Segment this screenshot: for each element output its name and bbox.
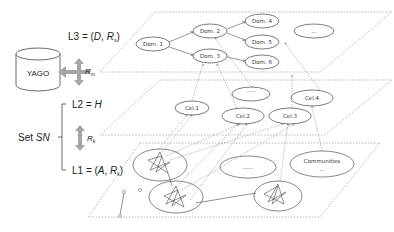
svg-text:Dom. 6: Dom. 6 [252,59,272,65]
celebrity-node-2: Cel.2 [222,108,264,124]
domain-node-2: Dom. 2 [193,24,227,38]
domain-node-more: ... [294,24,334,38]
svg-text:Cel.3: Cel.3 [283,113,298,119]
domain-node-3: Dom. 3 [193,49,227,63]
svg-text:Communities: Communities [304,158,340,164]
isolated-node [139,189,142,192]
celebrity-node-1: Cel.1 [175,101,209,115]
domain-nodes: Dom. 1 Dom. 2 Dom. 3 Dom. 4 Dom. 5 Dom. … [136,14,334,69]
celebrity-node-3: Cel.3 [269,108,311,124]
community-cluster-1 [133,149,187,181]
rm-label: Rm [85,67,95,77]
community-graph-edges [120,152,286,215]
svg-text:Cel.2: Cel.2 [236,113,250,119]
community-cluster-3 [254,181,302,211]
celebrity-node-more: ..... [232,87,270,101]
l1-label: L1 = (A, Rk) [72,165,123,177]
l3-label: L3 = (D, Rs) [68,31,120,43]
svg-text:Dom. 2: Dom. 2 [200,28,220,34]
svg-text:Dom. 1: Dom. 1 [143,41,163,47]
diagram-canvas: YAGO Rm L3 = (D, Rs) L2 = H L1 = (A, Rk)… [0,0,394,232]
svg-text:Cel.4: Cel.4 [305,95,320,101]
domain-node-1: Dom. 1 [136,37,170,51]
celebrity-node-4: Cel.4 [291,90,333,106]
domain-node-5: Dom. 5 [245,35,279,49]
isolated-node [119,215,122,218]
svg-text:...: ... [311,28,316,34]
yago-database-icon: YAGO [16,48,60,91]
domain-node-4: Dom. 4 [245,14,279,28]
set-sn-bracket [58,104,66,170]
isolated-node [123,191,126,194]
l2-label: L2 = H [72,99,103,110]
svg-text:Cel.1: Cel.1 [185,105,199,111]
celebrity-nodes: Cel.1 Cel.2 Cel.3 Cel.4 ..... [175,87,333,124]
yago-label: YAGO [27,69,50,78]
rk-arrow-icon [75,125,85,151]
svg-text:Dom. 4: Dom. 4 [252,18,272,24]
svg-text:Dom. 5: Dom. 5 [252,39,272,45]
svg-text:......: ...... [243,164,254,170]
svg-text:.....: ..... [247,87,256,93]
set-sn-label: Set SN [18,132,50,143]
svg-text:...: ... [319,166,324,172]
rk-label: Rk [87,134,96,144]
communities-node: Communities ... [290,151,354,177]
domain-node-6: Dom. 6 [245,55,279,69]
svg-text:Dom. 3: Dom. 3 [200,53,220,59]
